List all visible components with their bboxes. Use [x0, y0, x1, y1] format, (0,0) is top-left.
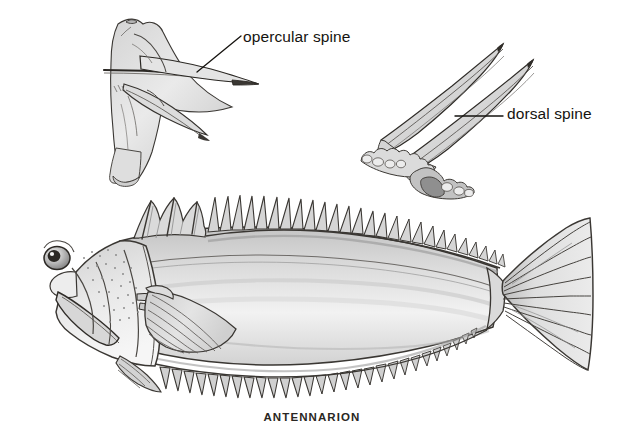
label-dorsal-spine: dorsal spine: [507, 106, 592, 122]
fish-eye: [44, 247, 70, 270]
illustration-canvas: [0, 0, 624, 423]
caption-species-name: ANTENNARION: [0, 412, 624, 423]
fish-snout: [50, 272, 77, 298]
caudal-fin: [502, 218, 593, 370]
whole-fish-lateral-view: [44, 195, 593, 398]
leader-line-opercular: [197, 36, 241, 72]
illustration-page: opercular spine dorsal spine ANTENNARION: [0, 0, 624, 423]
label-opercular-spine: opercular spine: [243, 29, 350, 45]
opercular-bone-inset: [104, 19, 259, 186]
spiny-dorsal-fin: [134, 198, 206, 239]
